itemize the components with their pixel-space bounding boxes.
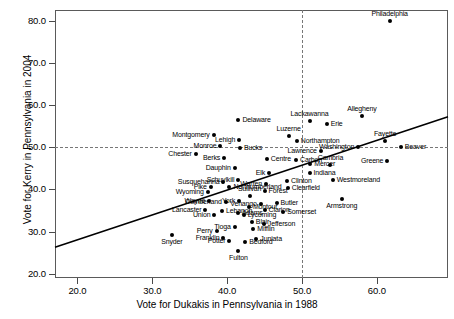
- data-point-label: Washington: [319, 143, 354, 151]
- data-point-label: Wyoming: [176, 188, 204, 196]
- data-point-label: Luzerne: [276, 125, 300, 133]
- data-point: [383, 139, 387, 143]
- data-point: [215, 229, 219, 233]
- data-point: [325, 122, 329, 126]
- data-point: [308, 162, 312, 166]
- data-point-label: Bucks: [244, 144, 262, 152]
- data-point-label: Erie: [331, 120, 343, 128]
- data-point: [319, 149, 323, 153]
- x-tick-mark: [302, 278, 303, 284]
- data-point-label: Fayette: [374, 130, 396, 138]
- data-point-label: Delaware: [242, 116, 270, 124]
- data-point: [265, 157, 269, 161]
- data-point: [227, 239, 231, 243]
- y-tick-label: 20.0: [0, 268, 46, 279]
- data-point-label: Fulton: [229, 254, 248, 262]
- x-tick-mark: [152, 278, 153, 284]
- data-point: [206, 190, 210, 194]
- data-point: [331, 178, 335, 182]
- data-point: [250, 220, 254, 224]
- data-point: [360, 114, 364, 118]
- y-tick-label: 50.0: [0, 141, 46, 152]
- x-tick-label: 60.0: [347, 285, 407, 296]
- y-tick-label: 70.0: [0, 57, 46, 68]
- data-point-label: Westmoreland: [337, 176, 380, 184]
- x-tick-label: 40.0: [197, 285, 257, 296]
- y-tick-label: 40.0: [0, 183, 46, 194]
- plot-area: PhiladelphiaAlleghenyDelawareLackawannaE…: [55, 10, 448, 278]
- data-point: [243, 240, 247, 244]
- data-point-label: Dauphin: [206, 164, 231, 172]
- data-point: [399, 145, 403, 149]
- data-point: [263, 189, 267, 193]
- data-point: [237, 138, 241, 142]
- data-point: [212, 213, 216, 217]
- data-point: [287, 134, 291, 138]
- data-point-label: Cumberland: [185, 198, 222, 206]
- y-tick-label: 60.0: [0, 99, 46, 110]
- data-point: [238, 146, 242, 150]
- data-point-label: Philadelphia: [371, 10, 407, 18]
- data-point-label: Chester: [168, 150, 191, 158]
- data-point-label: Lackawanna: [291, 110, 329, 118]
- x-tick-mark: [227, 278, 228, 284]
- data-point: [220, 209, 224, 213]
- data-point: [251, 227, 255, 231]
- x-tick-label: 50.0: [272, 285, 332, 296]
- data-point: [248, 194, 252, 198]
- data-point: [308, 171, 312, 175]
- data-point: [236, 118, 240, 122]
- data-point-label: Beaver: [405, 143, 426, 151]
- data-point-label: Berks: [203, 154, 220, 162]
- x-tick-label: 20.0: [47, 285, 107, 296]
- data-point-label: Centre: [271, 155, 291, 163]
- data-point-label: Armstrong: [326, 202, 357, 210]
- data-point: [340, 197, 344, 201]
- data-point-label: Montgomery: [172, 131, 209, 139]
- data-point: [227, 185, 231, 189]
- data-point: [242, 213, 246, 217]
- data-point-label: Sullivan: [238, 185, 261, 193]
- data-point-label: Mercer: [314, 160, 335, 168]
- data-point: [294, 158, 298, 162]
- data-point-label: Clearfield: [292, 184, 320, 192]
- data-point-label: Union: [193, 211, 211, 219]
- data-point: [295, 139, 299, 143]
- data-point: [285, 179, 289, 183]
- data-point: [222, 156, 226, 160]
- data-point: [385, 159, 389, 163]
- data-point-label: Snyder: [161, 238, 182, 246]
- data-point: [308, 119, 312, 123]
- data-point: [267, 171, 271, 175]
- data-point-label: Allegheny: [347, 105, 376, 113]
- data-point: [356, 145, 360, 149]
- data-point-label: Forest: [269, 187, 288, 195]
- data-point: [224, 200, 228, 204]
- x-tick-label: 30.0: [122, 285, 182, 296]
- data-point: [170, 233, 174, 237]
- data-point: [388, 19, 392, 23]
- data-point-label: Elk: [256, 169, 265, 177]
- data-point-label: Greene: [361, 157, 383, 165]
- x-tick-mark: [377, 278, 378, 284]
- scatter-plot-figure: Vote for Kerry in Pennsylvania in 2004 2…: [0, 0, 454, 319]
- data-point-label: Somerset: [287, 208, 316, 216]
- x-axis-title: Vote for Dukakis in Pennsylvania in 1988: [0, 299, 454, 310]
- data-point: [233, 225, 237, 229]
- x-tick-mark: [77, 278, 78, 284]
- data-point-label: Monroe: [194, 142, 217, 150]
- y-tick-label: 30.0: [0, 226, 46, 237]
- data-point: [209, 185, 213, 189]
- data-point-label: Indiana: [314, 169, 336, 177]
- data-point-label: Bedford: [249, 238, 272, 246]
- data-point: [194, 152, 198, 156]
- data-point-label: Lawrence: [288, 147, 317, 155]
- data-point: [236, 249, 240, 253]
- data-point-label: Potter: [208, 237, 226, 245]
- data-point: [233, 166, 237, 170]
- data-point-label: Lehigh: [215, 136, 235, 144]
- y-tick-label: 80.0: [0, 15, 46, 26]
- data-point-label: Mifflin: [257, 225, 274, 233]
